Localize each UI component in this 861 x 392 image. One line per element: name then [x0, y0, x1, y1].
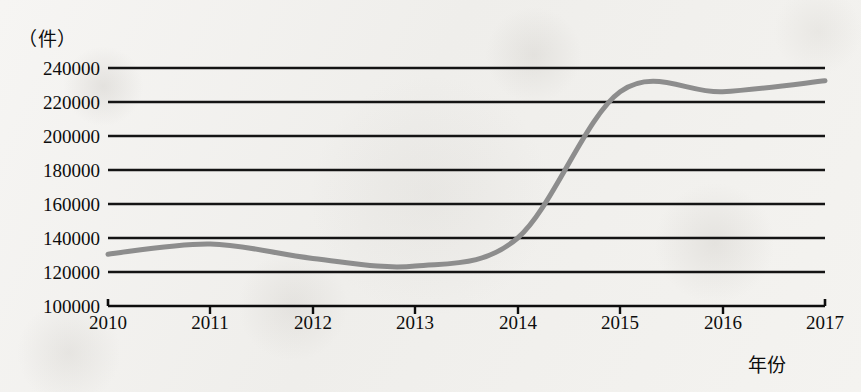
x-tick-label-2014: 2014 — [483, 313, 553, 332]
x-tick-label-2013: 2013 — [380, 313, 450, 332]
chart-page: （件） 240000 220000 200000 180000 160000 1… — [0, 0, 861, 392]
x-tick-label-2015: 2015 — [585, 313, 655, 332]
x-tick-label-2011: 2011 — [175, 313, 245, 332]
x-axis-title: 年份 — [748, 350, 786, 377]
x-tick-label-2016: 2016 — [688, 313, 758, 332]
chart-plot-area — [0, 0, 861, 392]
gridlines — [108, 68, 825, 272]
x-tick-label-2010: 2010 — [73, 313, 143, 332]
x-tick-label-2017: 2017 — [790, 313, 860, 332]
x-tick-label-2012: 2012 — [278, 313, 348, 332]
